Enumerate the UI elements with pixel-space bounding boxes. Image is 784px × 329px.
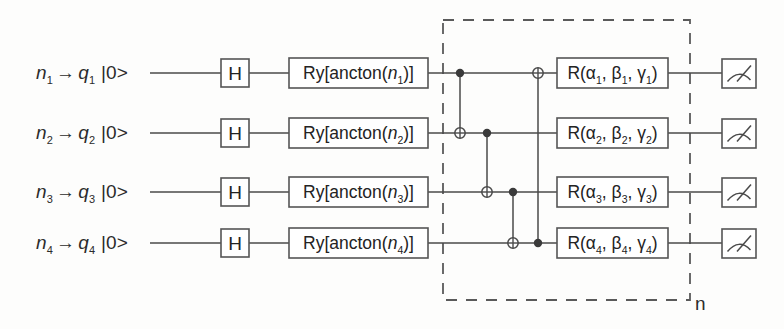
ket-q2: |0> [101,122,128,143]
ket-q1: |0> [101,62,128,83]
measure-q3 [722,178,756,207]
qubit-q1: q1 [78,62,95,83]
repeated-block-label: n [695,294,706,313]
input-n1: n1 [36,62,53,83]
control-dot-q3 [509,188,517,196]
measure-q2 [722,119,756,148]
gate-h-q4-label: H [221,234,249,253]
arrow-icon: → [53,62,78,83]
gate-h-q2-label: H [221,124,249,143]
wire-label-q1: n1→q1 |0> [36,63,128,86]
qubit-q4: q4 [78,232,95,253]
arrow-icon: → [53,181,78,202]
gate-h-q3-label: H [221,183,249,202]
cnot-q1-q2 [455,69,465,138]
cnot-q4-q1 [533,68,543,247]
ket-q4: |0> [101,232,128,253]
measure-q4 [722,229,756,258]
gate-ry-q3-label: Ry[ancton(n3)] [289,184,428,204]
gate-r-q2-label: R(α2, β2, γ2) [557,125,668,145]
input-n3: n3 [36,181,53,202]
measure-q1 [722,59,756,88]
wire-label-q3: n3→q3 |0> [36,182,128,205]
cnot-q2-q3 [482,129,492,197]
control-dot-q4 [534,239,542,247]
control-dot-q2 [483,129,491,137]
gate-ry-q4-label: Ry[ancton(n4)] [289,235,428,255]
gate-r-q3-label: R(α3, β3, γ3) [557,184,668,204]
circuit-vector-layer [0,0,784,329]
ket-q3: |0> [101,181,128,202]
arrow-icon: → [53,122,78,143]
gate-r-q1-label: R(α1, β1, γ1) [557,65,668,85]
input-n4: n4 [36,232,53,253]
gate-ry-q2-label: Ry[ancton(n2)] [289,125,428,145]
qubit-q3: q3 [78,181,95,202]
input-n2: n2 [36,122,53,143]
cnot-q3-q4 [508,188,518,248]
gate-r-q4-label: R(α4, β4, γ4) [557,235,668,255]
wire-label-q2: n2→q2 |0> [36,123,128,146]
wire-label-q4: n4→q4 |0> [36,233,128,256]
gate-h-q1-label: H [221,64,249,83]
control-dot-q1 [456,69,464,77]
qubit-q2: q2 [78,122,95,143]
gate-ry-q1-label: Ry[ancton(n1)] [289,65,428,85]
quantum-circuit-diagram: n1→q1 |0> n2→q2 |0> n3→q3 |0> n4→q4 |0> … [0,0,784,329]
arrow-icon: → [53,232,78,253]
